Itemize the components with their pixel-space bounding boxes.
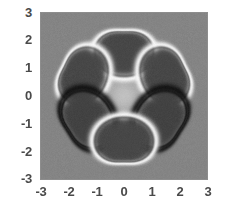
x-tick-label-2: 2 — [168, 184, 192, 199]
x-tick-label-m3: -3 — [29, 184, 53, 199]
x-tick-label-0: 0 — [112, 184, 136, 199]
y-tick-label-m1: -1 — [8, 116, 32, 131]
x-tick-label-m1: -1 — [85, 184, 109, 199]
y-tick-label-2: 2 — [8, 32, 32, 47]
x-tick-label-m2: -2 — [57, 184, 81, 199]
x-tick-label-1: 1 — [140, 184, 164, 199]
y-tick-label-m2: -2 — [8, 144, 32, 159]
y-tick-label-3: 3 — [8, 5, 32, 20]
density-heatmap-canvas — [41, 13, 207, 179]
plot-area — [40, 12, 208, 180]
y-tick-label-1: 1 — [8, 60, 32, 75]
x-tick-label-3: 3 — [196, 184, 220, 199]
density-plot-figure: 3 2 1 0 -1 -2 -3 -3 -2 -1 0 1 2 3 — [0, 0, 225, 211]
y-tick-label-0: 0 — [8, 88, 32, 103]
